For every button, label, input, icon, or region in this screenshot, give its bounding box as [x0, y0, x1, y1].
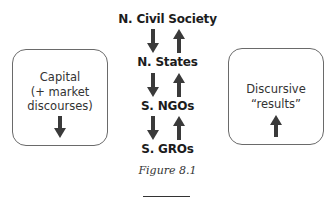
results-line-1: Discursive: [229, 82, 323, 97]
node-n-states: N. States: [115, 55, 220, 69]
node-s-gros: S. GROs: [115, 142, 220, 156]
capital-label: Capital (+ market discourses): [13, 70, 107, 114]
results-line-2: “results”: [229, 97, 323, 112]
node-s-ngos: S. NGOs: [115, 99, 220, 113]
caption-rule: [143, 196, 190, 197]
capital-line-3: discourses): [13, 99, 107, 114]
node-n-civil-society: N. Civil Society: [115, 12, 220, 26]
capital-line-2: (+ market: [13, 85, 107, 100]
capital-line-1: Capital: [13, 70, 107, 85]
up-arrow-icon: [173, 116, 185, 140]
down-arrow-icon: [54, 116, 66, 138]
down-arrow-icon: [147, 73, 159, 97]
capital-box: Capital (+ market discourses): [12, 49, 108, 146]
up-arrow-icon: [173, 29, 185, 53]
down-arrow-icon: [147, 116, 159, 140]
results-box: Discursive “results”: [228, 48, 324, 145]
up-arrow-icon: [173, 73, 185, 97]
down-arrow-icon: [147, 29, 159, 53]
results-label: Discursive “results”: [229, 82, 323, 111]
figure-caption: Figure 8.1: [115, 164, 220, 177]
up-arrow-icon: [270, 115, 282, 137]
